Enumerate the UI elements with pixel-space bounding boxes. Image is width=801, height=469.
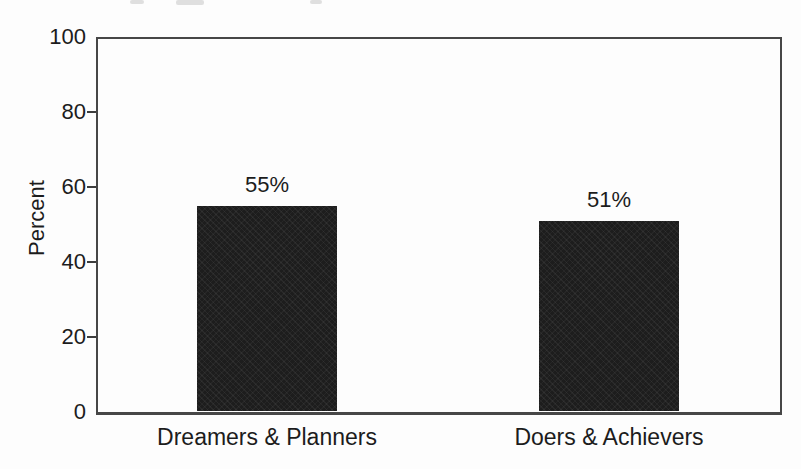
y-tick-label: 0 bbox=[20, 400, 86, 424]
y-tick-mark bbox=[87, 261, 96, 263]
y-tick-label: 20 bbox=[20, 325, 86, 349]
scan-artifact bbox=[176, 0, 204, 5]
bar-value-label: 51% bbox=[587, 189, 631, 211]
bar-value-label: 55% bbox=[245, 174, 289, 196]
x-category-label: Doers & Achievers bbox=[514, 425, 703, 449]
y-tick-mark bbox=[87, 186, 96, 188]
y-tick-mark bbox=[87, 336, 96, 338]
y-tick-label: 100 bbox=[20, 25, 86, 49]
bar-2 bbox=[539, 221, 679, 411]
y-tick-label: 40 bbox=[20, 250, 86, 274]
y-tick-mark bbox=[87, 111, 96, 113]
y-tick-label: 60 bbox=[20, 175, 86, 199]
bar-1 bbox=[197, 206, 337, 411]
scan-artifact bbox=[130, 0, 144, 4]
scanned-bar-chart-page: Percent 02040608010055%Dreamers & Planne… bbox=[0, 0, 801, 469]
y-tick-label: 80 bbox=[20, 100, 86, 124]
x-category-label: Dreamers & Planners bbox=[157, 425, 377, 449]
scan-artifact bbox=[310, 0, 322, 4]
